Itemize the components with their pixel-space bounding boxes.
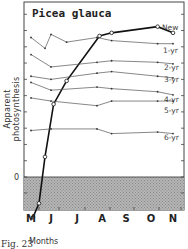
x-tick-label: A bbox=[98, 213, 106, 224]
x-tick-label: J bbox=[74, 213, 79, 224]
negative-region-shade bbox=[24, 177, 184, 210]
series-line bbox=[31, 72, 173, 80]
chart-svg: New1-yr2-yr3-yr4-yr5-yr6-yr Picea glauca… bbox=[0, 0, 188, 249]
figure-caption: Fig. 23 bbox=[1, 239, 33, 249]
series-label: 3-yr bbox=[164, 75, 180, 84]
series-label: 2-yr bbox=[164, 63, 180, 72]
x-tick-label: S bbox=[122, 213, 129, 224]
y-axis-label: Apparent photosynthesis bbox=[3, 59, 21, 159]
series-line bbox=[31, 34, 173, 48]
x-tick-label: O bbox=[147, 213, 156, 224]
series-label: 1-yr bbox=[163, 46, 179, 55]
series-label: New bbox=[162, 23, 178, 32]
x-tick-label: M bbox=[26, 213, 36, 224]
y-zero-label: 0 bbox=[14, 173, 19, 182]
series-line bbox=[31, 82, 173, 94]
series-label: 5-yr bbox=[164, 106, 180, 115]
chart-title: Picea glauca bbox=[32, 7, 111, 20]
x-axis-label: Months bbox=[29, 237, 58, 246]
x-tick-labels: MJJASON bbox=[26, 213, 177, 224]
series-line bbox=[31, 55, 173, 67]
x-tick-label: J bbox=[48, 213, 53, 224]
series-label: 4-yr bbox=[164, 95, 180, 104]
x-tick-label: N bbox=[169, 213, 177, 224]
series-labels: New1-yr2-yr3-yr4-yr5-yr6-yr bbox=[162, 23, 180, 142]
series-line bbox=[31, 129, 173, 134]
series-label: 6-yr bbox=[164, 133, 180, 142]
